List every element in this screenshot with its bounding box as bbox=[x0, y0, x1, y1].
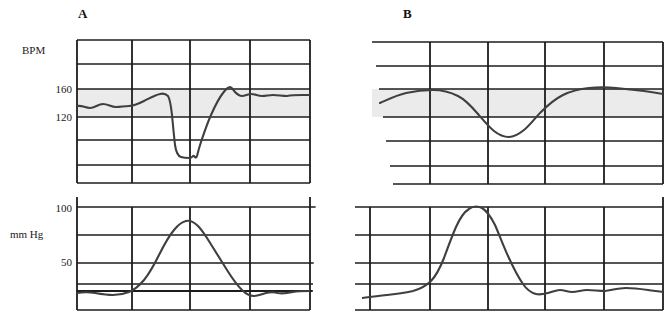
chart-canvas bbox=[0, 0, 672, 314]
torn-paper-divider bbox=[310, 30, 372, 314]
normal-range-band-b bbox=[372, 89, 663, 117]
normal-range-band-a bbox=[77, 89, 310, 117]
cardiotocograph-figure: A B BPM 160 120 mm Hg 100 50 bbox=[0, 0, 672, 314]
